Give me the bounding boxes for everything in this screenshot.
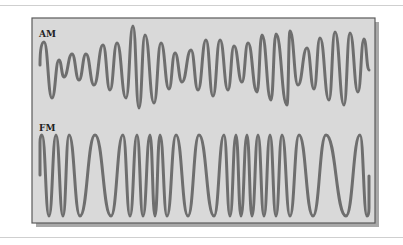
am-label: AM <box>38 29 56 39</box>
modulation-diagram: AM FM <box>0 0 403 245</box>
fm-label: FM <box>39 123 55 133</box>
modulation-figure: AM FM <box>0 0 403 245</box>
